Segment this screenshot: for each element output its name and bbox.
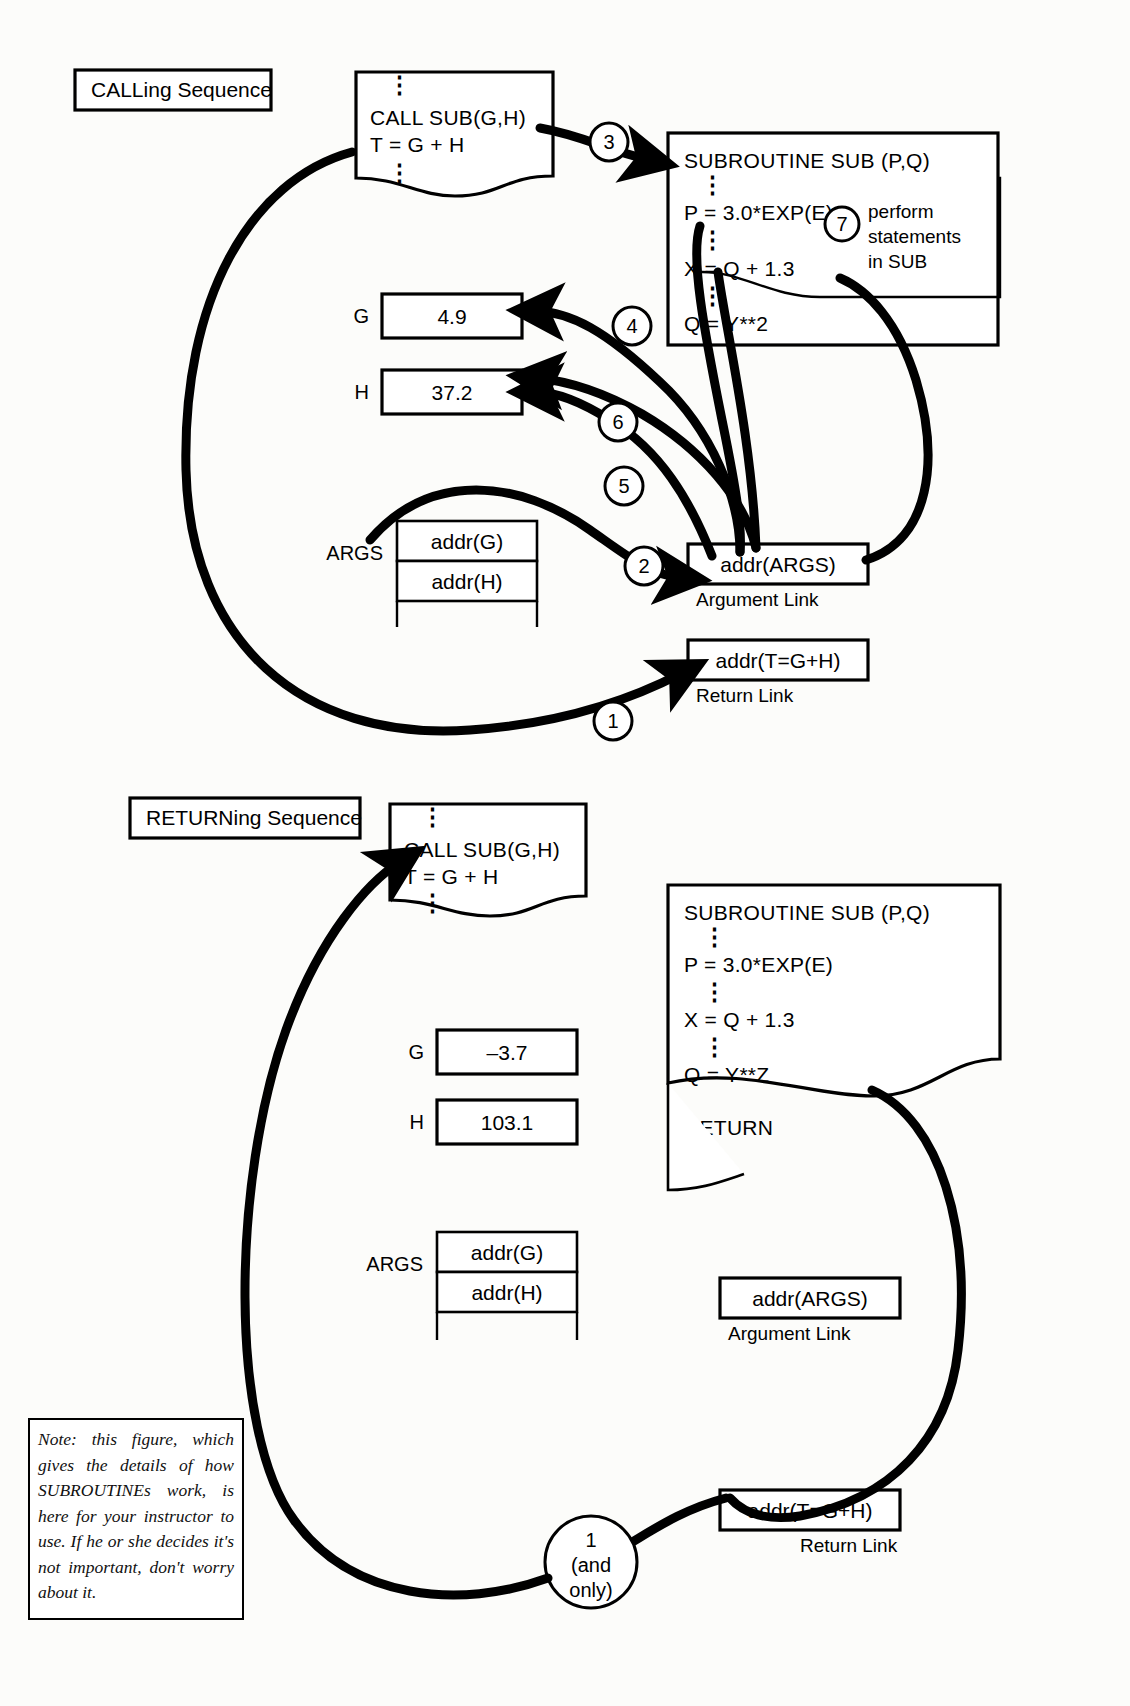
flow-step1-to-main [245,862,548,1595]
annotation-line-1: perform [868,201,933,222]
calling-args-value-2: addr(H) [431,570,502,593]
returning-header-label: RETURNing Sequence [146,806,362,829]
returning-var-name-H: H [410,1111,424,1133]
returning-args-label: ARGS [366,1253,423,1275]
calling-sub-line-1: P = 3.0*EXP(E) [684,201,833,224]
step-5-label: 5 [618,475,629,497]
sub-dots-1: ⋮ [701,171,724,197]
step-1-label: 1 [607,710,618,732]
returning-var-value-H: 103.1 [481,1111,534,1134]
step-2-label: 2 [638,555,649,577]
step-7-label: 7 [836,213,847,235]
step-3-label: 3 [603,131,614,153]
instructor-note-box: Note: this figure, which gives the detai… [28,1418,244,1620]
step-4-label: 4 [626,315,637,337]
annotation-line-3: in SUB [868,251,927,272]
annotation-line-2: statements [868,226,961,247]
flow-link-to-step1 [622,1498,726,1548]
calling-return-link-value: addr(T=G+H) [716,649,841,672]
calling-main-line-1: CALL SUB(G,H) [370,106,526,129]
main-dots-bottom: ⋮ [388,159,411,185]
returning-sub-line-2: X = Q + 1.3 [684,1008,795,1031]
figure-page: CALLing Sequence ⋮ CALL SUB(G,H) T = G +… [0,0,1130,1706]
returning-args-value-2: addr(H) [471,1281,542,1304]
calling-args-label: ARGS [326,542,383,564]
calling-header-label: CALLing Sequence [91,78,272,101]
calling-sub-title: SUBROUTINE SUB (P,Q) [684,149,930,172]
returning-step-1-line3: only) [569,1579,612,1601]
returning-var-value-G: –3.7 [487,1041,528,1064]
calling-var-name-G: G [353,305,369,327]
returning-sub-line-1: P = 3.0*EXP(E) [684,953,833,976]
calling-argument-link-label: Argument Link [696,589,819,610]
step-6-label: 6 [612,411,623,433]
instructor-note-text: Note: this figure, which gives the detai… [38,1429,234,1602]
returning-sub-line-3: Q = Y**Z [684,1063,769,1086]
returning-step-1-line2: (and [571,1554,611,1576]
returning-return-link-label: Return Link [800,1535,898,1556]
returning-sub-title: SUBROUTINE SUB (P,Q) [684,901,930,924]
calling-argument-link-value: addr(ARGS) [720,553,836,576]
ret-main-dots-bottom: ⋮ [421,889,444,915]
main-dots-top: ⋮ [388,71,411,97]
returning-main-line-1: CALL SUB(G,H) [404,838,560,861]
ret-sub-dots-2: ⋮ [703,978,726,1004]
calling-var-value-G: 4.9 [437,305,466,328]
calling-var-name-H: H [355,381,369,403]
ret-sub-dots-1: ⋮ [703,923,726,949]
ret-main-dots-top: ⋮ [421,803,444,829]
calling-return-link-label: Return Link [696,685,794,706]
sub-dots-2: ⋮ [701,226,724,252]
calling-args-value-1: addr(G) [431,530,503,553]
ret-sub-dots-3: ⋮ [703,1033,726,1059]
returning-main-line-2: T = G + H [404,865,499,888]
returning-args-value-1: addr(G) [471,1241,543,1264]
returning-var-name-G: G [408,1041,424,1063]
calling-main-line-2: T = G + H [370,133,465,156]
returning-argument-link-label: Argument Link [728,1323,851,1344]
returning-step-1-num: 1 [585,1529,596,1551]
calling-var-value-H: 37.2 [432,381,473,404]
returning-argument-link-value: addr(ARGS) [752,1287,868,1310]
flow-arrow-1 [186,152,682,731]
